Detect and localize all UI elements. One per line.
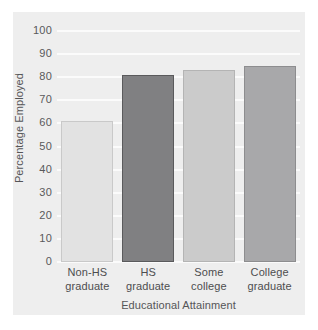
y-axis-tick-label: 40 (39, 164, 52, 175)
x-axis-tick-label: Non-HSgraduate (57, 266, 118, 293)
plot-area (57, 31, 300, 262)
gridline (57, 53, 300, 55)
x-axis-tick-label: HSgraduate (118, 266, 179, 293)
y-axis-tick-label: 30 (39, 187, 52, 198)
x-axis-tick-label: Somecollege (179, 266, 240, 293)
y-axis-tick-label: 100 (33, 25, 52, 36)
y-axis-tick-label: 70 (39, 94, 52, 105)
x-axis-tick-label-line: Some (179, 266, 240, 280)
x-axis-tick-label-line: graduate (57, 280, 118, 294)
y-axis-tick-label: 50 (39, 141, 52, 152)
x-axis-title: Educational Attainment (57, 299, 300, 311)
x-axis-tick-label-line: college (179, 280, 240, 294)
bar (61, 121, 113, 262)
x-axis-tick-label-line: HS (118, 266, 179, 280)
y-axis-title: Percentage Employed (13, 43, 25, 213)
bar (244, 66, 296, 262)
bar (122, 75, 174, 262)
x-axis-tick-label-line: College (239, 266, 300, 280)
bar-chart: 0102030405060708090100 Percentage Employ… (0, 0, 318, 330)
y-axis-tick-label: 80 (39, 71, 52, 82)
y-axis-tick-label: 10 (39, 233, 52, 244)
y-axis-tick-label: 0 (46, 256, 52, 267)
bar (183, 70, 235, 262)
x-axis-tick-labels: Non-HSgraduateHSgraduateSomecollegeColle… (57, 266, 300, 300)
y-axis-tick-label: 60 (39, 117, 52, 128)
y-axis-tick-label: 20 (39, 210, 52, 221)
x-axis-tick-label-line: graduate (118, 280, 179, 294)
x-axis-tick-label-line: graduate (239, 280, 300, 294)
x-axis-tick-label: Collegegraduate (239, 266, 300, 293)
x-axis-tick-label-line: Non-HS (57, 266, 118, 280)
y-axis-tick-label: 90 (39, 48, 52, 59)
gridline (57, 30, 300, 32)
y-axis-tick-labels: 0102030405060708090100 (22, 0, 52, 330)
